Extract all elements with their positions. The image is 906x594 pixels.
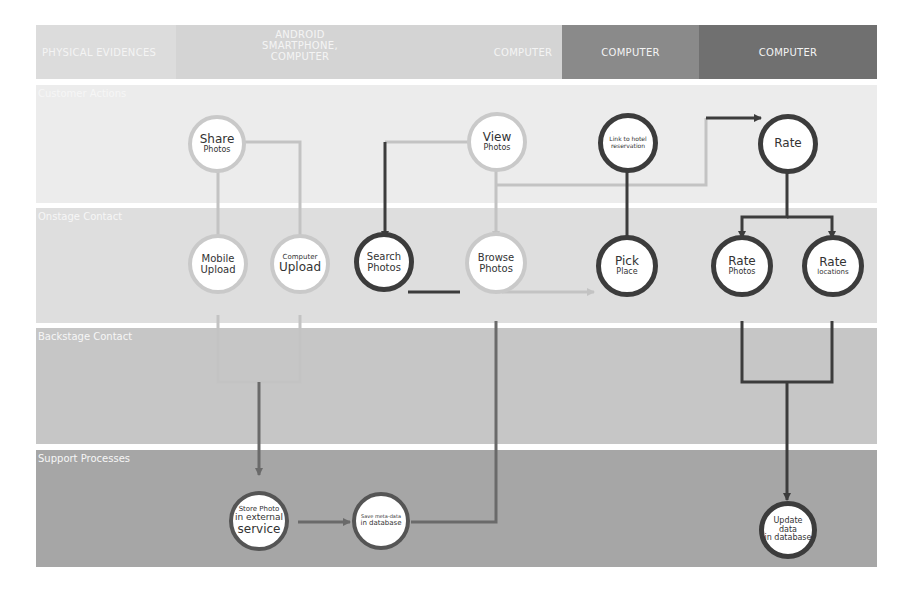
node-rate[interactable]: Rate [758,114,818,174]
node-subtitle: in database [360,520,401,528]
node-subtitle: Photos [484,144,511,153]
node-store-photo-external[interactable]: Store Photo in external service [229,491,289,551]
node-pick-place[interactable]: Pick Place [596,235,658,297]
node-subtitle: Place [616,268,637,277]
node-title: Rate [819,256,847,269]
node-title: Update data [764,517,812,535]
node-subtitle: Upload [200,264,235,275]
node-title: Browse [478,252,514,263]
node-update-data-database[interactable]: Update data in database [759,501,817,559]
node-subtitle: Upload [279,261,321,274]
node-browse-photos[interactable]: Browse Photos [465,232,527,294]
node-title: Mobile [202,253,235,264]
node-subtitle: reservation [611,143,645,150]
node-rate-photos[interactable]: Rate Photos [711,235,773,297]
node-computer-upload[interactable]: Computer Upload [270,234,330,294]
node-subtitle: Photos [367,262,401,273]
node-link-hotel-reservation[interactable]: Link to hotel reservation [598,113,658,173]
node-subtitle: locations [817,269,848,277]
node-mobile-upload[interactable]: Mobile Upload [188,234,248,294]
node-view-photos[interactable]: View Photos [467,112,527,172]
node-subtitle: Photos [729,268,756,277]
node-title: Rate [774,137,802,150]
node-search-photos[interactable]: Search Photos [354,232,414,292]
node-share-photos[interactable]: Share Photos [188,115,246,173]
node-rate-locations[interactable]: Rate locations [802,235,864,297]
node-subtitle: Photos [479,263,513,274]
connector-lines [36,25,877,567]
service-blueprint: PHYSICAL EVIDENCES ANDROID SMARTPHONE, C… [36,25,877,567]
node-subtitle: in database [765,534,812,543]
node-subtitle: Photos [204,146,231,155]
node-title: Search [367,251,401,262]
node-extra: service [238,523,281,536]
node-save-meta-data[interactable]: Save meta-data in database [352,492,410,550]
